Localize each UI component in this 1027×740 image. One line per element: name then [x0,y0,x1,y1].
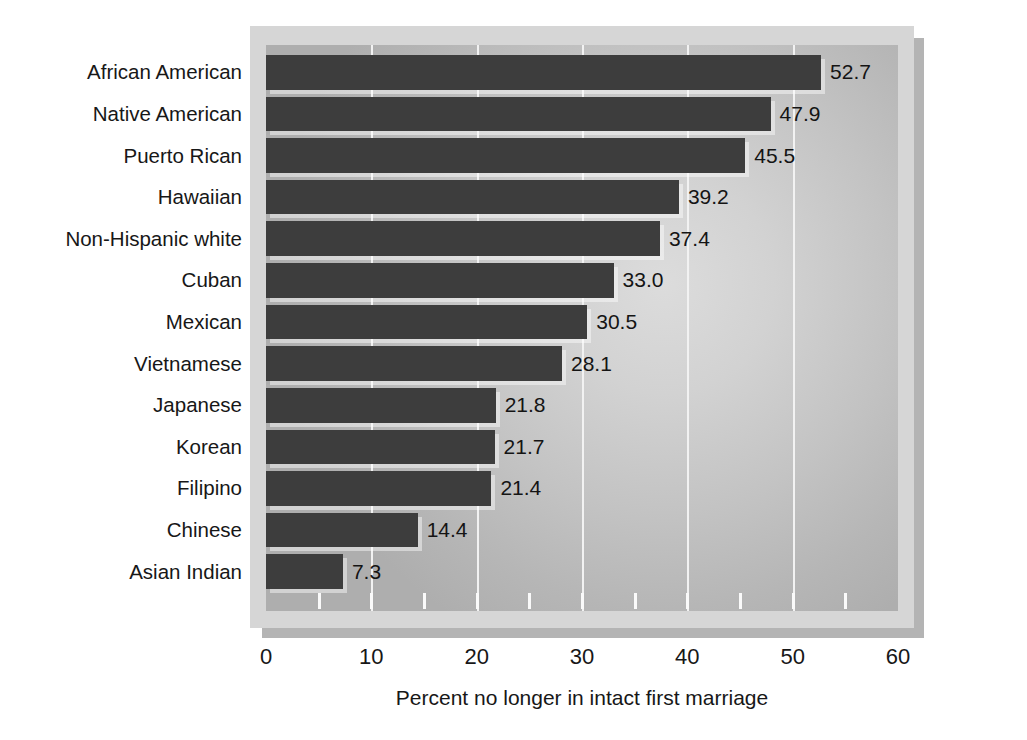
bar-row: 28.1 [266,346,898,381]
bar-row: 37.4 [266,221,898,256]
bar-value-label: 21.4 [500,476,541,500]
category-label: Puerto Rican [123,144,242,168]
category-label: Filipino [177,476,242,500]
bar [266,513,418,548]
bar-value-label: 14.4 [427,518,468,542]
category-label: Mexican [166,310,242,334]
x-axis-tick-labels: 0102030405060 [0,644,1027,678]
bar [266,554,343,589]
category-label: Korean [176,435,242,459]
bar [266,55,821,90]
bar-chart-figure: 52.747.945.539.237.433.030.528.121.821.7… [0,0,1027,740]
bar [266,471,491,506]
bar-value-label: 30.5 [596,310,637,334]
category-axis-labels: African AmericanNative AmericanPuerto Ri… [0,45,242,611]
category-label: Hawaiian [158,185,242,209]
bar [266,97,771,132]
bar-value-label: 28.1 [571,352,612,376]
bar-value-label: 7.3 [352,560,381,584]
bar-row: 45.5 [266,138,898,173]
bar-row: 30.5 [266,305,898,340]
bar-value-label: 45.5 [754,144,795,168]
x-tick-label-60: 60 [886,644,910,670]
x-tick-label-0: 0 [260,644,272,670]
x-axis-title: Percent no longer in intact first marria… [266,686,898,710]
bar [266,305,587,340]
bar-value-label: 37.4 [669,227,710,251]
bar-row: 33.0 [266,263,898,298]
category-label: Japanese [153,393,242,417]
plot-area: 52.747.945.539.237.433.030.528.121.821.7… [266,45,898,611]
bar [266,346,562,381]
bar-row: 39.2 [266,180,898,215]
x-tick-label-40: 40 [675,644,699,670]
x-tick-label-10: 10 [359,644,383,670]
bar-value-label: 39.2 [688,185,729,209]
bar-value-label: 21.7 [504,435,545,459]
bar-row: 21.7 [266,430,898,465]
bar-value-label: 52.7 [830,60,871,84]
bar [266,138,745,173]
category-label: Vietnamese [134,352,242,376]
category-label: Chinese [167,518,242,542]
bar [266,388,496,423]
bar [266,180,679,215]
category-label: Non-Hispanic white [65,227,242,251]
category-label: Asian Indian [129,560,242,584]
bar-value-label: 33.0 [623,268,664,292]
bar-value-label: 21.8 [505,393,546,417]
x-tick-label-30: 30 [570,644,594,670]
bar [266,221,660,256]
bar-row: 21.4 [266,471,898,506]
bar-series: 52.747.945.539.237.433.030.528.121.821.7… [266,45,898,611]
bar-row: 47.9 [266,97,898,132]
x-tick-label-20: 20 [464,644,488,670]
x-tick-label-50: 50 [780,644,804,670]
bar-row: 14.4 [266,513,898,548]
category-label: Native American [93,102,242,126]
category-label: African American [87,60,242,84]
bar-row: 21.8 [266,388,898,423]
bar [266,263,614,298]
bar-row: 7.3 [266,554,898,589]
bar-value-label: 47.9 [780,102,821,126]
bar-row: 52.7 [266,55,898,90]
bar [266,430,495,465]
category-label: Cuban [182,268,242,292]
